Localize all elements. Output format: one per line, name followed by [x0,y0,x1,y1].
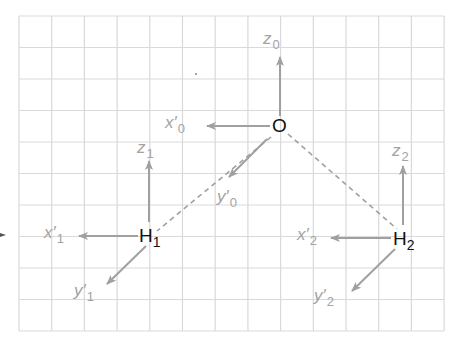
atom-symbol: H [139,225,153,246]
axis-label-x1: x′1 [44,224,64,241]
edge-arrow-mark [0,233,6,237]
axis-label-z0: z0 [263,30,280,47]
axis-label-z2: z2 [392,142,409,159]
axis-arrow-y2 [352,249,395,291]
axis-arrow-y1 [107,246,146,284]
axis-label-y1: y′1 [74,282,94,299]
bond-lines [157,134,397,231]
axis-label-x2: x′2 [297,226,317,243]
stray-dot [195,73,197,75]
atom-label-O: O [272,116,287,135]
atom-subscript: 2 [407,237,415,253]
atom-symbol: O [272,115,287,136]
atom-subscript: 1 [153,234,161,250]
bond-O-H2 [288,134,397,229]
atom-symbol: H [393,228,407,249]
atom-label-H1: H1 [139,226,161,245]
axis-label-x0: x′0 [165,114,185,131]
coordinate-diagram [0,0,458,345]
axis-label-y2: y′2 [314,287,334,304]
axis-label-y0: y′0 [217,188,237,205]
atom-label-H2: H2 [393,229,415,248]
axis-label-z1: z1 [137,139,154,156]
